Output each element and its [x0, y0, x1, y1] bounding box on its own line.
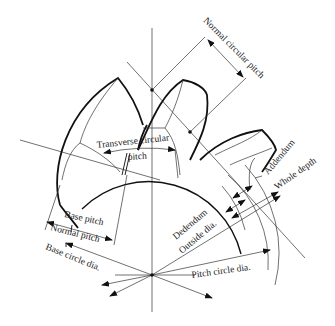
gear-nomenclature-diagram: Normal circular pitch Transverse circula…: [0, 0, 335, 326]
label-base-pitch: Base pitch: [64, 209, 105, 227]
transverse-tick-3: [175, 150, 178, 178]
addendum-leader: [255, 176, 262, 178]
lower-left-arrow-1: [102, 275, 152, 285]
gear-drawing: Normal circular pitch Transverse circula…: [0, 0, 335, 326]
base-circle-arc: [82, 182, 241, 254]
gear-tooth-middle: [138, 80, 208, 175]
lower-left-arrow-2: [110, 275, 152, 296]
pitch-point-1: [150, 88, 154, 92]
gear-center: [150, 273, 154, 277]
dedendum-arrow: [226, 200, 245, 212]
label-base-circle-dia: Base circle dia.: [44, 242, 102, 273]
label-transverse-circular-pitch-2: pitch: [127, 151, 147, 162]
label-transverse-circular-pitch-1: Transverse circular: [96, 132, 170, 150]
normal-pitch-ext-1: [152, 37, 205, 90]
gear-tooth-right: [200, 130, 276, 190]
pitch-point-2: [188, 130, 192, 134]
label-normal-circular-pitch: Normal circular pitch: [202, 15, 267, 80]
whole-depth-arrow: [232, 192, 278, 218]
